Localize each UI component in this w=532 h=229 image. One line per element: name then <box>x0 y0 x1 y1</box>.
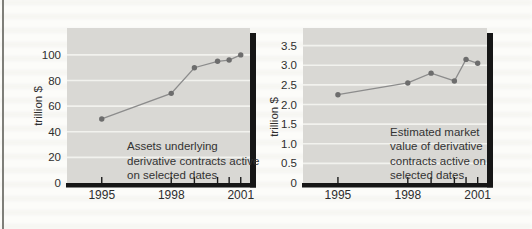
data-point <box>192 65 197 70</box>
data-point <box>335 92 340 97</box>
data-point <box>475 61 480 66</box>
y-tick-label: 100 <box>42 49 61 61</box>
x-tick-label: 1995 <box>88 188 115 202</box>
data-point <box>452 78 457 83</box>
x-tick-label: 1998 <box>158 188 185 202</box>
data-point <box>226 57 231 62</box>
y-tick-label: 0.5 <box>281 157 297 169</box>
data-point <box>428 70 433 75</box>
data-point <box>215 59 220 64</box>
chart-annotation-line: value of derivative <box>390 140 483 152</box>
data-point <box>99 116 104 121</box>
chart-annotation-line: on selected dates <box>127 169 217 181</box>
y-tick-label: 1.0 <box>281 138 297 150</box>
x-tick-label: 2001 <box>464 188 491 202</box>
derivatives-charts-canvas: 020406080100199519982001trillion $Assets… <box>0 0 532 229</box>
x-axis-bar <box>302 183 493 188</box>
y-axis-label: trillion $ <box>268 97 280 137</box>
chart-annotation-line: selected dates <box>390 169 464 181</box>
y-tick-label: 1.5 <box>281 118 297 130</box>
y-tick-label: 2.5 <box>281 79 297 91</box>
data-point <box>405 80 410 85</box>
shadow-bar <box>487 33 493 188</box>
y-tick-label: 80 <box>48 75 61 87</box>
y-tick-label: 0 <box>291 177 297 189</box>
y-tick-label: 40 <box>48 126 61 138</box>
x-tick-label: 1995 <box>325 188 352 202</box>
y-tick-label: 2.0 <box>281 99 297 111</box>
data-point <box>169 91 174 96</box>
y-tick-label: 3.0 <box>281 59 297 71</box>
y-tick-label: 0 <box>55 177 61 189</box>
chart-annotation-line: Assets underlying <box>127 140 218 152</box>
y-tick-label: 60 <box>48 100 61 112</box>
x-axis-bar <box>66 183 256 188</box>
y-tick-label: 3.5 <box>281 40 297 52</box>
x-tick-label: 2001 <box>227 188 254 202</box>
chart-annotation-line: Estimated market <box>390 126 480 138</box>
chart-annotation-line: derivative contracts active <box>127 155 259 167</box>
chart-annotation-line: contracts active on <box>390 155 486 167</box>
x-tick-label: 1998 <box>394 188 421 202</box>
scanned-textbook-figure: 020406080100199519982001trillion $Assets… <box>0 0 532 229</box>
y-tick-label: 20 <box>48 151 61 163</box>
y-axis-label: trillion $ <box>32 86 44 126</box>
data-point <box>238 52 243 57</box>
data-point <box>463 57 468 62</box>
